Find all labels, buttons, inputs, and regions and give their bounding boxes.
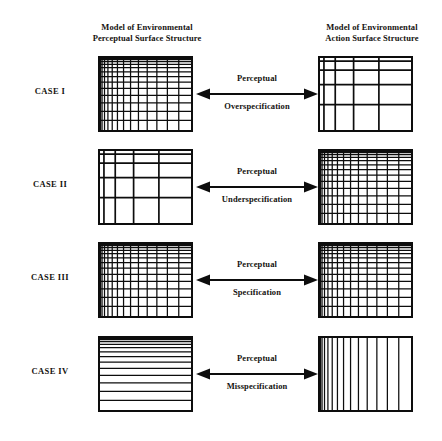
relation-arrow-group: Perceptual Misspecification <box>196 336 318 412</box>
case-row: CASE IV Perceptual Misspecification <box>0 330 442 422</box>
action-surface-grid <box>318 336 413 412</box>
column-header-action: Model of Environmental Action Surface St… <box>312 22 432 44</box>
perceptual-surface-grid <box>98 56 193 132</box>
relation-label-top: Perceptual <box>196 73 318 83</box>
perceptual-surface-grid <box>98 242 193 318</box>
relation-label-bottom: Overspecification <box>196 101 318 111</box>
relation-label-bottom: Misspecification <box>196 381 318 391</box>
case-row: CASE I Perceptual Overspecification <box>0 50 442 142</box>
double-headed-arrow-icon <box>196 181 318 193</box>
column-header-perceptual: Model of Environmental Perceptual Surfac… <box>86 22 208 44</box>
case-label: CASE III <box>8 272 92 282</box>
action-surface-grid <box>318 242 413 318</box>
case-row: CASE III Perceptual Specification <box>0 236 442 328</box>
double-headed-arrow-icon <box>196 88 318 100</box>
column-header-action-line2: Action Surface Structure <box>312 33 432 44</box>
relation-label-bottom: Underspecification <box>196 194 318 204</box>
relation-label-top: Perceptual <box>196 353 318 363</box>
case-label: CASE II <box>8 179 92 189</box>
action-surface-grid <box>318 56 413 132</box>
case-label: CASE I <box>8 86 92 96</box>
double-headed-arrow-icon <box>196 368 318 380</box>
relation-label-bottom: Specification <box>196 287 318 297</box>
action-surface-grid <box>318 149 413 225</box>
relation-arrow-group: Perceptual Underspecification <box>196 149 318 225</box>
relation-arrow-group: Perceptual Overspecification <box>196 56 318 132</box>
double-headed-arrow-icon <box>196 274 318 286</box>
relation-label-top: Perceptual <box>196 166 318 176</box>
relation-arrow-group: Perceptual Specification <box>196 242 318 318</box>
perceptual-surface-grid <box>98 336 193 412</box>
relation-label-top: Perceptual <box>196 259 318 269</box>
case-row: CASE II Perceptual Underspecification <box>0 143 442 235</box>
column-header-perceptual-line2: Perceptual Surface Structure <box>86 33 208 44</box>
column-header-action-line1: Model of Environmental <box>312 22 432 33</box>
column-header-perceptual-line1: Model of Environmental <box>86 22 208 33</box>
figure-canvas: Model of Environmental Perceptual Surfac… <box>0 0 442 441</box>
perceptual-surface-grid <box>98 149 193 225</box>
case-label: CASE IV <box>8 366 92 376</box>
